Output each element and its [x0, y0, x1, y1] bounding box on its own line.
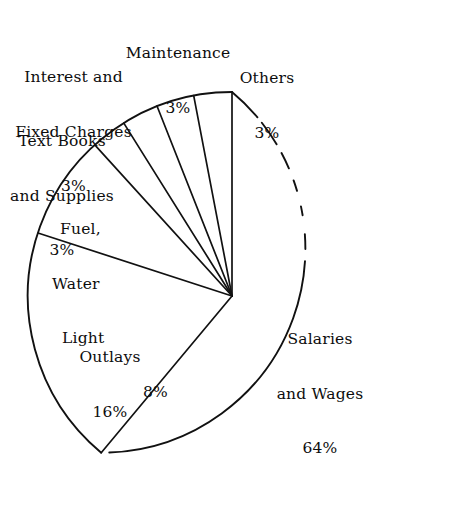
pie-slice-boundaries [38, 92, 232, 453]
slice-divider-outlays-salaries [101, 296, 232, 453]
pie-arc-solid-left [28, 92, 232, 453]
pie-chart-canvas [0, 0, 452, 524]
pie-outline [28, 92, 306, 453]
slice-divider-maintenance-interest [157, 106, 232, 296]
pie-chart: Maintenance 3% Others 3% Interest and Fi… [0, 0, 452, 524]
